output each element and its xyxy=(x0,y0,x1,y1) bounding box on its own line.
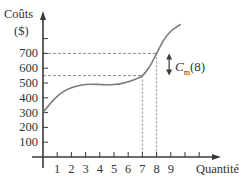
x-tick-label: 5 xyxy=(108,163,120,176)
x-tick-label: 7 xyxy=(136,163,148,176)
y-axis-title-line1: Coûts xyxy=(4,8,33,21)
y-tick-label: 100 xyxy=(0,136,38,149)
x-axis-arrow-icon xyxy=(212,154,221,160)
x-tick-label: 3 xyxy=(80,163,92,176)
y-tick-label: 600 xyxy=(0,62,38,75)
y-tick-label: 700 xyxy=(0,47,38,60)
y-axis-arrow-icon xyxy=(40,11,46,20)
x-tick-label: 2 xyxy=(65,163,77,176)
x-axis-title: Quantité xyxy=(196,163,239,176)
x-tick-label: 4 xyxy=(94,163,106,176)
total-cost-curve xyxy=(43,25,181,113)
x-tick-label: 6 xyxy=(122,163,134,176)
y-tick-label: 500 xyxy=(0,77,38,90)
y-tick-label: 300 xyxy=(0,107,38,120)
x-tick-label: 1 xyxy=(51,163,63,176)
x-tick-label: 8 xyxy=(151,163,163,176)
marginal-cost-label: Cm(8) xyxy=(175,60,205,77)
x-tick-label: 9 xyxy=(165,163,177,176)
y-tick-label: 200 xyxy=(0,121,38,134)
arrow-down-icon xyxy=(166,70,172,76)
y-tick-label: 400 xyxy=(0,92,38,105)
y-axis-title-line2: ($) xyxy=(14,25,29,38)
arrow-up-icon xyxy=(166,53,172,59)
